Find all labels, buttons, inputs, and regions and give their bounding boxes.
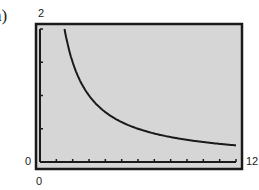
screen-background [36,24,242,169]
calculator-screen [0,0,259,190]
